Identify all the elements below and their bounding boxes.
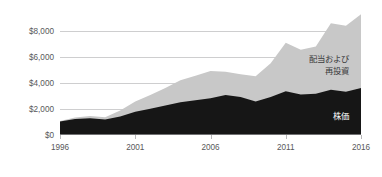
y-tick-label-4000: $4,000 [29,79,54,88]
series-label-stock-price: 株価 [333,111,349,121]
series-label-dividends-line2: 再投資 [325,66,349,76]
y-tick-label-2000: $2,000 [29,105,54,114]
x-tick-label-2001: 2001 [126,143,145,152]
x-tick-label-2011: 2011 [277,143,295,152]
stacked-area-chart: $0$2,000$4,000$6,000$8,000 1996200120062… [0,0,382,177]
y-tick-label-8000: $8,000 [29,27,54,36]
x-tick-label-2006: 2006 [201,143,220,152]
x-tick-label-2016: 2016 [352,143,371,152]
series-label-dividends-line1: 配当および [309,54,350,64]
x-tick-label-1996: 1996 [51,143,70,152]
chart-canvas: $0$2,000$4,000$6,000$8,000 1996200120062… [0,0,382,177]
y-tick-label-0: $0 [45,131,55,140]
y-tick-label-6000: $6,000 [29,53,54,62]
